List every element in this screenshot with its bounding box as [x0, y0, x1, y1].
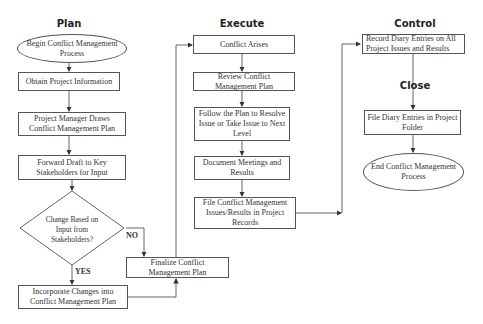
incorporate-changes-node: Incorporate Changes into Conflict Manage…	[18, 285, 128, 309]
document-meetings-node: Document Meetings and Results	[194, 156, 290, 180]
begin-node: Begin Conflict Management Process	[17, 34, 127, 63]
decision-node: Change Based on Input from Stakeholders?	[44, 215, 100, 244]
obtain-info-node: Obtain Project Information	[18, 72, 120, 91]
lane-heading-control: Control	[385, 18, 445, 29]
no-label: NO	[126, 231, 138, 240]
pm-draws-plan-node: Project Manager Draws Conflict Managemen…	[18, 112, 126, 136]
record-diary-node: Record Diary Entries on All Project Issu…	[362, 34, 465, 54]
conflict-management-flowchart: Plan Execute Control Close Begin Conflic…	[0, 0, 483, 324]
follow-plan-node: Follow the Plan to Resolve Issue or Take…	[194, 107, 290, 141]
forward-draft-node: Forward Draft to Key Stakeholders for In…	[18, 155, 126, 180]
yes-label: YES	[75, 267, 91, 276]
review-plan-node: Review Conflict Management Plan	[193, 72, 295, 91]
end-node: End Conflict Management Process	[363, 153, 464, 191]
lane-heading-execute: Execute	[212, 18, 272, 29]
conflict-arises-node: Conflict Arises	[193, 35, 295, 54]
file-conflict-node: File Conflict Management Issues/Results …	[194, 197, 296, 229]
finalize-plan-node: Finalize Conflict Management Plan	[126, 257, 229, 278]
file-diary-node: File Diary Entries in Project Folder	[364, 110, 461, 135]
lane-heading-close: Close	[395, 80, 435, 91]
lane-heading-plan: Plan	[44, 18, 94, 29]
